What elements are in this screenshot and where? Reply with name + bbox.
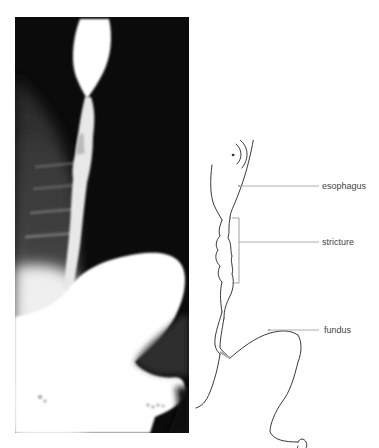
bolus-inner-arc-icon	[236, 144, 241, 164]
stricture-bracket	[232, 218, 239, 283]
stricture-label: stricture	[322, 237, 354, 247]
barium-swallow-xray	[15, 17, 189, 433]
esophagus-label: esophagus	[322, 181, 366, 191]
fundus-label: fundus	[324, 325, 351, 335]
